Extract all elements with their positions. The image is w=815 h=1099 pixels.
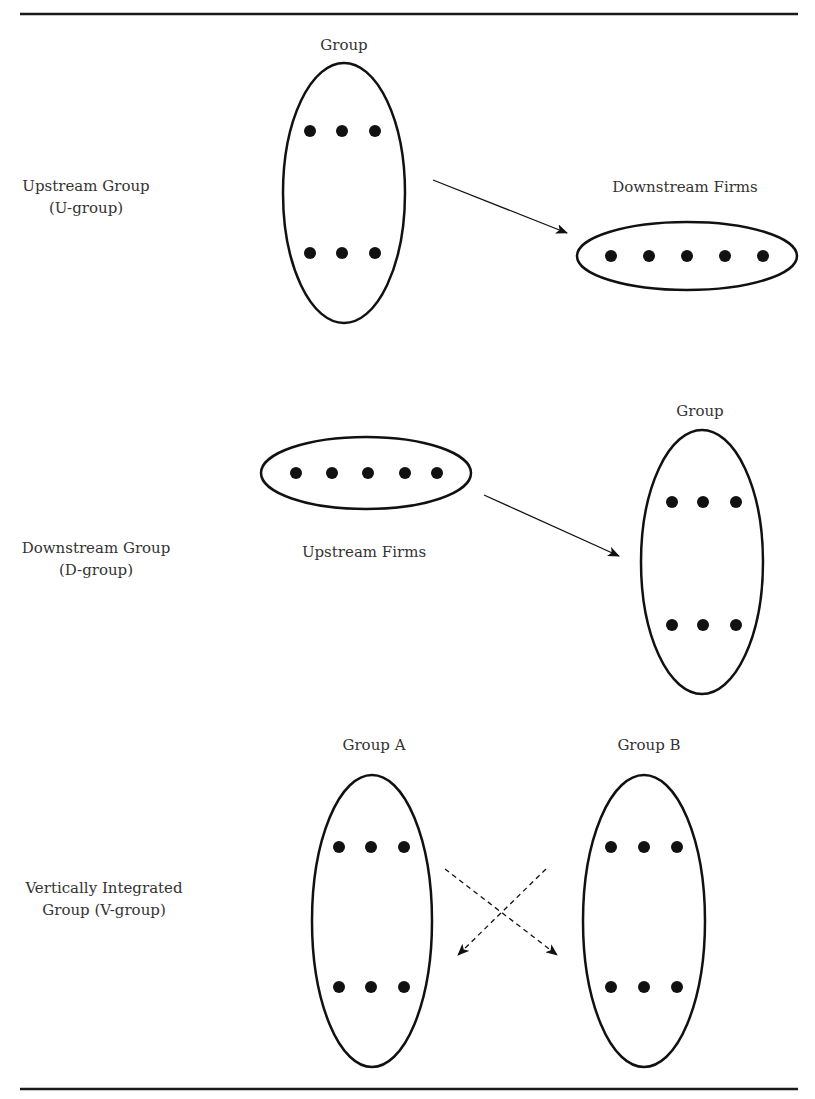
row-v-group: Vertically Integrated Group (V-group) Gr…: [24, 736, 705, 1067]
firms-label: Upstream Firms: [302, 543, 426, 561]
row-label-line2: (U-group): [49, 199, 123, 217]
row-label-line1: Vertically Integrated: [24, 879, 183, 897]
group-b-ellipse: [583, 775, 705, 1067]
group-ellipse: [641, 430, 763, 694]
group-dots: [666, 496, 742, 631]
row-label-line1: Upstream Group: [22, 177, 149, 195]
group-a-label: Group A: [342, 736, 405, 754]
row-label-line2: (D-group): [59, 561, 133, 579]
group-b-label: Group B: [617, 736, 680, 754]
firms-dots: [290, 467, 443, 479]
dashed-arrow-b-to-a: [458, 869, 546, 955]
group-a-ellipse: [312, 775, 432, 1067]
row-d-group: Downstream Group (D-group) Upstream Firm…: [22, 402, 763, 694]
vertical-group-diagram: Upstream Group (U-group) Group Downstrea…: [0, 0, 815, 1099]
group-a-dots: [333, 841, 410, 993]
row-label-line1: Downstream Group: [22, 539, 171, 557]
group-dots: [304, 125, 381, 259]
group-label: Group: [320, 36, 367, 54]
firms-label: Downstream Firms: [612, 178, 758, 196]
arrow-solid: [484, 495, 619, 556]
group-b-dots: [605, 841, 683, 993]
group-ellipse: [283, 63, 405, 323]
firms-dots: [605, 250, 769, 262]
dashed-arrow-a-to-b: [445, 869, 557, 955]
row-u-group: Upstream Group (U-group) Group Downstrea…: [22, 36, 797, 323]
arrow-solid: [433, 180, 567, 233]
group-label: Group: [676, 402, 723, 420]
row-label-line2: Group (V-group): [42, 901, 166, 919]
